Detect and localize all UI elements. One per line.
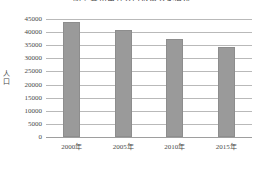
y-tick-label: 15000: [0, 94, 42, 102]
x-tick-label: 2015年: [216, 141, 237, 151]
y-axis-tick-labels: 4500040000350003000025000200001500010000…: [0, 19, 42, 137]
y-tick-label: 10000: [0, 107, 42, 115]
x-axis-tick-labels: 2000年2005年2010年2015年: [46, 141, 252, 153]
y-tick-label: 0: [0, 133, 42, 141]
plot-area: [46, 19, 252, 137]
gridline: [46, 137, 252, 138]
bar: [115, 30, 132, 137]
y-tick-label: 25000: [0, 67, 42, 75]
x-tick-label: 2010年: [164, 141, 185, 151]
y-tick-label: 35000: [0, 41, 42, 49]
x-tick-label: 2000年: [61, 141, 82, 151]
y-tick-label: 45000: [0, 15, 42, 23]
y-tick-label: 40000: [0, 28, 42, 36]
bar: [166, 39, 183, 137]
x-tick-label: 2005年: [113, 141, 134, 151]
y-tick-label: 30000: [0, 54, 42, 62]
bar: [218, 47, 235, 137]
y-tick-label: 20000: [0, 81, 42, 89]
gridline: [46, 19, 252, 20]
bar: [63, 22, 80, 137]
chart-title: 图 2 各市常住人口数量变化情况: [0, 0, 264, 1]
y-tick-label: 5000: [0, 120, 42, 128]
